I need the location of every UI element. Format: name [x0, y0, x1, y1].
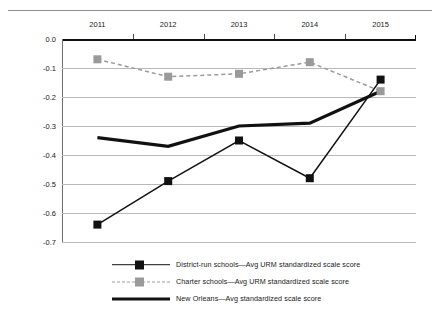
data-point-marker [235, 137, 243, 145]
x-axis-tick-label: 2014 [301, 20, 318, 29]
legend-label: District-run schools—Avg URM standardize… [170, 260, 360, 269]
x-axis-tick-label: 2011 [89, 20, 105, 29]
y-axis-tick-label: 0.0 [46, 35, 56, 44]
legend-swatch [112, 276, 170, 288]
data-point-marker [164, 73, 172, 81]
legend-item: Charter schools—Avg URM standardized sca… [112, 273, 412, 290]
legend-square-icon [135, 260, 144, 269]
y-axis-tick-label: -0.5 [43, 180, 56, 189]
y-axis-tick-label: -0.4 [43, 151, 56, 160]
data-point-marker [306, 58, 314, 66]
chart-page: 20112012201320142015 0.0-0.1-0.2-0.3-0.4… [0, 0, 440, 316]
chart-legend: District-run schools—Avg URM standardize… [112, 256, 412, 307]
gridline [62, 242, 416, 243]
data-point-marker [93, 55, 101, 63]
legend-line-icon [112, 297, 170, 300]
series-lines [62, 39, 416, 242]
x-axis-tick-label: 2013 [231, 20, 248, 29]
x-axis-tick-label: 2015 [372, 20, 389, 29]
data-point-marker [164, 177, 172, 185]
data-point-marker [93, 221, 101, 229]
x-axis-labels: 20112012201320142015 [62, 0, 416, 36]
legend-swatch [112, 293, 170, 305]
plot-area [62, 39, 416, 242]
data-point-marker [306, 174, 314, 182]
y-axis-tick-label: -0.1 [43, 64, 56, 73]
x-axis-tick-label: 2012 [160, 20, 177, 29]
data-point-marker [377, 76, 385, 84]
legend-label: Charter schools—Avg URM standardized sca… [170, 277, 349, 286]
data-point-marker [377, 87, 385, 95]
y-axis-tick-label: -0.7 [43, 238, 56, 247]
y-axis-tick-label: -0.3 [43, 122, 56, 131]
legend-item: District-run schools—Avg URM standardize… [112, 256, 412, 273]
y-axis-tick-label: -0.2 [43, 93, 56, 102]
y-axis-labels: 0.0-0.1-0.2-0.3-0.4-0.5-0.6-0.7 [0, 39, 56, 242]
legend-label: New Orleans—Avg standardized scale score [170, 294, 321, 303]
data-point-marker [235, 70, 243, 78]
legend-swatch [112, 259, 170, 271]
legend-item: New Orleans—Avg standardized scale score [112, 290, 412, 307]
series-line [97, 80, 380, 225]
legend-square-icon [135, 277, 144, 286]
y-axis-tick-label: -0.6 [43, 209, 56, 218]
